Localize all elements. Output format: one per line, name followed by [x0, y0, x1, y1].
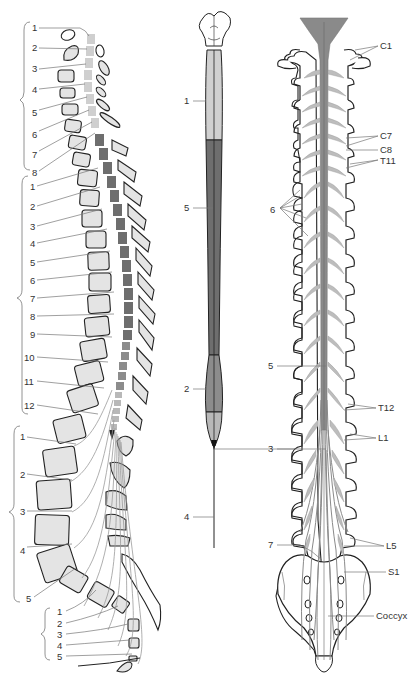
- label-t6: 6: [30, 275, 35, 286]
- right-panel-posterior-view: C1 C7 C8 T11 T12 L1 L5 S1 Coccyx 6 5 3: [268, 18, 407, 672]
- mid-label-4: 4: [184, 511, 189, 522]
- label-L5: L5: [386, 540, 397, 551]
- label-t3: 3: [30, 221, 35, 232]
- lumbar-brace: [9, 426, 20, 602]
- label-l5: 5: [26, 593, 31, 604]
- label-Coccyx: Coccyx: [376, 610, 407, 621]
- label-c4: 4: [32, 84, 37, 95]
- label-T12: T12: [378, 402, 394, 413]
- label-C7: C7: [380, 130, 392, 141]
- label-l2: 2: [20, 469, 25, 480]
- label-C1: C1: [380, 40, 392, 51]
- label-s3: 3: [57, 629, 62, 640]
- label-c1: 1: [32, 22, 37, 33]
- label-t4: 4: [30, 238, 35, 249]
- label-t11: 11: [24, 376, 34, 387]
- label-6: 6: [270, 204, 275, 215]
- thoracic-vertebral-bodies: [66, 169, 111, 413]
- label-t8: 8: [30, 311, 35, 322]
- label-t9: 9: [30, 329, 35, 340]
- label-t2: 2: [30, 201, 35, 212]
- label-S1: S1: [388, 566, 400, 577]
- label-l3: 3: [20, 506, 25, 517]
- label-7: 7: [268, 539, 273, 550]
- label-c5: 5: [32, 107, 37, 118]
- label-l1: 1: [20, 431, 25, 442]
- label-t5: 5: [30, 257, 35, 268]
- label-s4: 4: [57, 640, 62, 651]
- mid-label-2: 2: [184, 383, 189, 394]
- label-c2: 2: [32, 42, 37, 53]
- mid-label-5: 5: [184, 202, 189, 213]
- label-C8: C8: [380, 144, 392, 155]
- mid-label-1: 1: [184, 95, 189, 106]
- label-s1: 1: [57, 606, 62, 617]
- label-T11: T11: [380, 155, 396, 166]
- label-3: 3: [268, 443, 273, 454]
- brainstem: [199, 12, 230, 46]
- label-5-right: 5: [268, 360, 273, 371]
- label-s5: 5: [57, 651, 62, 662]
- label-L1: L1: [378, 432, 389, 443]
- label-c8: 8: [32, 167, 37, 178]
- label-t10: 10: [24, 352, 35, 363]
- label-c6: 6: [32, 129, 37, 140]
- label-c7: 7: [32, 149, 37, 160]
- label-c3: 3: [32, 63, 37, 74]
- label-t7: 7: [30, 293, 35, 304]
- left-panel-lateral-view: 1 2 3 4 5 6 7 8 1 2 3 4 5: [9, 22, 161, 672]
- label-l4: 4: [20, 545, 25, 556]
- spinal-cord-diagram: 1 2 3 4 5 6 7 8 1 2 3 4 5: [0, 0, 419, 684]
- label-s2: 2: [57, 618, 62, 629]
- cervical-brace: [20, 22, 30, 170]
- sacral-brace: [41, 608, 50, 660]
- label-t12: 12: [24, 400, 35, 411]
- label-t1: 1: [30, 181, 35, 192]
